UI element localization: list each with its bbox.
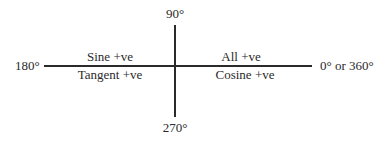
label-180-degrees: 180°: [15, 59, 40, 73]
label-0-or-360-degrees: 0° or 360°: [320, 59, 374, 73]
quadrant-tangent-positive: Tangent +ve: [78, 68, 143, 82]
quadrant-all-positive: All +ve: [221, 50, 260, 64]
quadrant-cosine-positive: Cosine +ve: [216, 68, 275, 82]
vertical-axis: [174, 25, 176, 117]
label-90-degrees: 90°: [166, 7, 184, 21]
quadrant-sine-positive: Sine +ve: [87, 50, 133, 64]
label-270-degrees: 270°: [163, 121, 188, 135]
